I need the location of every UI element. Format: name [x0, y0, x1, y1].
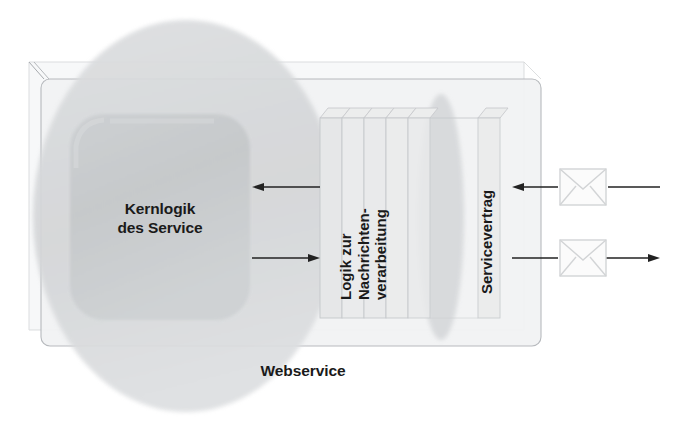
webservice-label: Webservice	[248, 362, 358, 381]
message-logic-label-line1: Logik zur	[337, 233, 354, 300]
core-logic-label: Kernlogikdes Service	[95, 200, 225, 238]
message-logic-label-line2: Nachrichten-	[355, 208, 372, 300]
outbound-message-envelope	[560, 240, 606, 276]
message-logic-label-line3: verarbeitung	[372, 209, 389, 300]
core-logic-label-line1: Kernlogik	[125, 200, 196, 217]
inbound-message-envelope	[560, 169, 606, 205]
core-logic-label-line2: des Service	[117, 219, 202, 236]
message-logic-label: Logik zurNachrichten-verarbeitung	[337, 208, 390, 300]
service-contract-label: Servicevertrag	[478, 190, 496, 294]
webservice-architecture-diagram: Kernlogikdes Service Logik zurNachrichte…	[0, 0, 687, 428]
